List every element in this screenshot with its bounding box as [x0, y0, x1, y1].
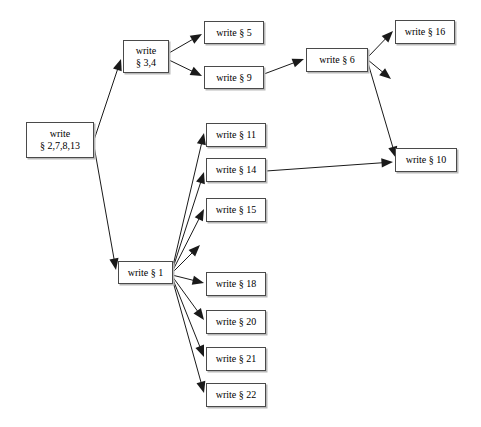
- edge-n_2_7_8_13-to-n_hub: [94, 146, 119, 270]
- edge-n_hub-to-n_21: [172, 277, 204, 357]
- node-label-line: write § 18: [216, 278, 257, 290]
- node-label-line: write: [50, 128, 71, 140]
- node-6[interactable]: write § 6: [306, 48, 368, 72]
- node-label-line: write § 9: [216, 72, 252, 84]
- node-3_4[interactable]: write§ 3,4: [123, 40, 169, 73]
- node-9[interactable]: write § 9: [204, 66, 264, 89]
- node-14[interactable]: write § 14: [206, 158, 266, 182]
- edge-n_hub-to-n_22: [172, 278, 205, 393]
- node-label-line: write § 6: [319, 54, 355, 66]
- edge-n_hub-to-n_dangling_b: [172, 245, 200, 273]
- edge-n_3_4-to-n_5: [169, 34, 202, 53]
- node-label-line: write § 15: [216, 204, 257, 216]
- node-hub[interactable]: write § 1: [118, 261, 173, 284]
- node-5[interactable]: write § 5: [204, 21, 264, 44]
- edge-n_6-to-n_16: [368, 31, 393, 57]
- edge-n_hub-to-n_15: [172, 209, 204, 272]
- node-label-line: write § 14: [216, 164, 257, 176]
- node-label-line: § 2,7,8,13: [40, 140, 80, 152]
- edge-n_hub-to-n_20: [172, 276, 204, 320]
- node-label-line: write § 16: [405, 26, 446, 38]
- node-label-line: write § 1: [128, 267, 164, 279]
- diagram-canvas: write§ 2,7,8,13write§ 3,4write § 5write …: [0, 0, 481, 427]
- edge-n_6-to-n_10: [368, 63, 397, 158]
- edge-n_14-to-n_10: [266, 158, 393, 171]
- node-label-line: write § 11: [216, 129, 256, 141]
- node-label-line: write: [136, 45, 157, 57]
- node-label-line: write § 22: [216, 389, 257, 401]
- node-20[interactable]: write § 20: [206, 310, 266, 334]
- node-16[interactable]: write § 16: [395, 20, 455, 44]
- node-18[interactable]: write § 18: [206, 272, 266, 296]
- node-label-line: § 3,4: [136, 57, 156, 69]
- node-2_7_8_13[interactable]: write§ 2,7,8,13: [26, 122, 94, 158]
- edge-n_2_7_8_13-to-n_3_4: [94, 59, 122, 140]
- node-label-line: write § 5: [216, 27, 252, 39]
- node-15[interactable]: write § 15: [206, 198, 266, 222]
- node-10[interactable]: write § 10: [395, 148, 457, 172]
- node-label-line: write § 21: [216, 353, 257, 365]
- node-22[interactable]: write § 22: [206, 383, 266, 407]
- node-label-line: write § 20: [216, 316, 257, 328]
- node-label-line: write § 10: [406, 154, 447, 166]
- edge-n_hub-to-n_11: [172, 133, 206, 270]
- edge-n_hub-to-n_14: [172, 172, 205, 271]
- edge-n_6-to-n_dangling_a: [368, 60, 391, 79]
- edge-n_hub-to-n_18: [172, 275, 204, 285]
- node-21[interactable]: write § 21: [206, 347, 266, 371]
- node-11[interactable]: write § 11: [206, 123, 266, 147]
- edge-n_3_4-to-n_9: [169, 60, 202, 76]
- edge-n_9-to-n_6: [264, 59, 304, 74]
